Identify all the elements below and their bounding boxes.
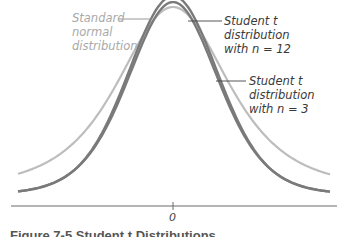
t3-annotation: Student t distribution with n = 3 xyxy=(249,74,315,116)
figure-caption: Figure 7-5 Student t Distributions xyxy=(10,228,216,237)
normal-annotation-line2: normal xyxy=(72,25,138,39)
t12-annotation-line1: Student t xyxy=(224,14,291,28)
t12-annotation-line2: distribution xyxy=(224,28,291,42)
t12-annotation: Student t distribution with n = 12 xyxy=(224,14,291,56)
normal-annotation-line1: Standard xyxy=(72,11,138,25)
normal-annotation: Standard normal distribution xyxy=(72,11,138,53)
t12-annotation-line3: with n = 12 xyxy=(224,42,291,56)
t3-annotation-line2: distribution xyxy=(249,88,315,102)
normal-annotation-line3: distribution xyxy=(72,39,138,53)
distribution-chart xyxy=(0,0,346,237)
x-tick-zero-label: 0 xyxy=(169,211,176,224)
t3-annotation-line3: with n = 3 xyxy=(249,102,315,116)
t3-annotation-line1: Student t xyxy=(249,74,315,88)
